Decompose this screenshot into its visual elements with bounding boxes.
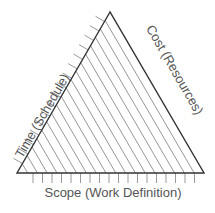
line [74, 54, 83, 59]
line [85, 35, 94, 40]
triple-constraint-diagram: Time (Schedule) Cost (Resources) Scope (… [0, 0, 215, 213]
line [96, 16, 105, 21]
scope-label: Scope (Work Definition) [44, 185, 181, 200]
hatch-fill [0, 12, 213, 205]
line [79, 45, 88, 50]
line [68, 64, 77, 69]
line [90, 26, 99, 31]
triangle-outline [17, 12, 204, 173]
cost-label: Cost (Resources) [143, 22, 207, 117]
bottom-ticks [33, 173, 195, 183]
